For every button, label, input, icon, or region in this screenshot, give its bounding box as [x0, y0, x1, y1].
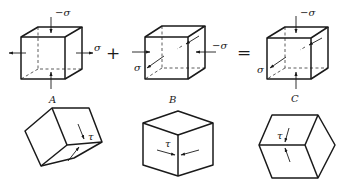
shear-label: τ: [88, 131, 94, 142]
cube-a: −σ σ A: [9, 7, 102, 105]
arrow-down-icon: [285, 128, 289, 142]
cube-b: −σ σ B: [132, 26, 228, 105]
arrow-right-icon: [157, 150, 175, 155]
stress-label-top: −σ: [300, 7, 316, 18]
stress-label-right: σ: [94, 42, 102, 53]
shear-label: τ: [277, 130, 283, 141]
caption-c: C: [291, 93, 299, 104]
caption-b: B: [168, 94, 176, 105]
arrow-diagonal-icon: [147, 56, 164, 68]
equals-sign: =: [237, 42, 251, 62]
stress-label-right: −σ: [212, 40, 228, 51]
arrow-left-icon: [181, 150, 199, 155]
rotated-cube-b: τ: [143, 111, 213, 176]
cube-c: −σ σ C: [257, 7, 328, 104]
rotated-cube-a: τ: [25, 108, 102, 166]
shear-label: τ: [165, 138, 171, 149]
arrow-up-icon: [285, 148, 290, 162]
stress-superposition-diagram: −σ σ A + −σ σ B =: [0, 0, 342, 186]
arrow-down-icon: [78, 124, 84, 139]
rotated-cube-c: τ: [259, 115, 335, 178]
arrow-diagonal-icon: [270, 57, 286, 68]
caption-a: A: [48, 94, 56, 105]
plus-sign: +: [106, 43, 120, 63]
stress-label-front: σ: [257, 64, 265, 75]
stress-label-top: −σ: [55, 7, 71, 18]
arrow-up-icon: [68, 147, 79, 161]
stress-label-front: σ: [134, 62, 142, 73]
